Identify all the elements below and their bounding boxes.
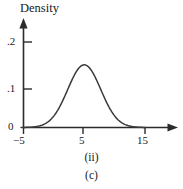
panel-caption: (ii) bbox=[0, 152, 183, 164]
density-figure: Density .2 .1 0 −5 5 15 (ii) (c) bbox=[0, 0, 183, 189]
y-tick-label-0.2: .2 bbox=[7, 36, 15, 47]
y-tick-label-0.1: .1 bbox=[7, 83, 15, 94]
x-axis-arrow-icon bbox=[168, 123, 179, 131]
x-tick-label--5: −5 bbox=[13, 135, 25, 146]
x-tick-label-5: 5 bbox=[79, 135, 85, 146]
x-tick-label-15: 15 bbox=[137, 135, 148, 146]
group-caption: (c) bbox=[0, 170, 183, 182]
y-axis-arrow-icon bbox=[19, 18, 27, 29]
y-tick-label-0: 0 bbox=[8, 121, 14, 132]
y-axis-title: Density bbox=[20, 2, 59, 15]
density-curve bbox=[21, 65, 145, 128]
